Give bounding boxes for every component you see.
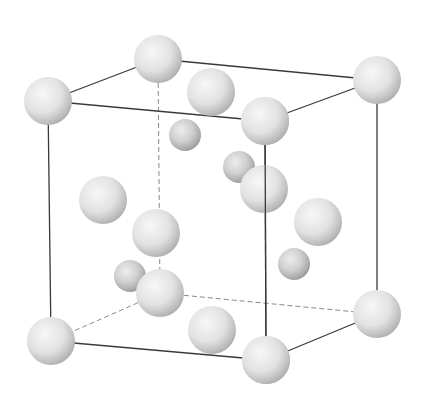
edge-top_back_left-top_back_right <box>158 59 377 80</box>
hidden-edge-top_back_left-bottom_back_left <box>158 59 160 293</box>
edge-top_front_left-bottom_front_left <box>48 101 51 341</box>
atom-tetrahedral-1 <box>169 119 201 151</box>
atom-corner-top-front-right-front <box>241 97 289 145</box>
atom-face-bottom <box>188 306 236 354</box>
atom-corner-top-front-left <box>24 77 72 125</box>
atom-corner-top-back-right <box>353 56 401 104</box>
atom-tetrahedral-4 <box>278 248 310 280</box>
atom-corner-bottom-back-right <box>353 290 401 338</box>
crystal-structure-figure <box>0 0 428 407</box>
hidden-edge-bottom_back_left-bottom_back_right <box>160 293 377 314</box>
atom-corner-bottom-front-right-front <box>242 336 290 384</box>
unit-cell-diagram <box>0 0 428 407</box>
atom-face-left <box>79 176 127 224</box>
edge-bottom_front_left-bottom_front_right <box>51 341 266 360</box>
edge-top_front_left-top_front_right <box>48 101 265 121</box>
atom-face-right <box>294 198 342 246</box>
atom-corner-top-back-left <box>134 35 182 83</box>
atom-face-back <box>132 209 180 257</box>
atom-face-top <box>187 68 235 116</box>
atom-corner-bottom-front-left <box>27 317 75 365</box>
edge-front-right-vertical-overlay <box>265 121 266 360</box>
atoms <box>24 35 401 384</box>
atom-corner-bottom-back-left <box>136 269 184 317</box>
atom-face-front <box>240 165 288 213</box>
